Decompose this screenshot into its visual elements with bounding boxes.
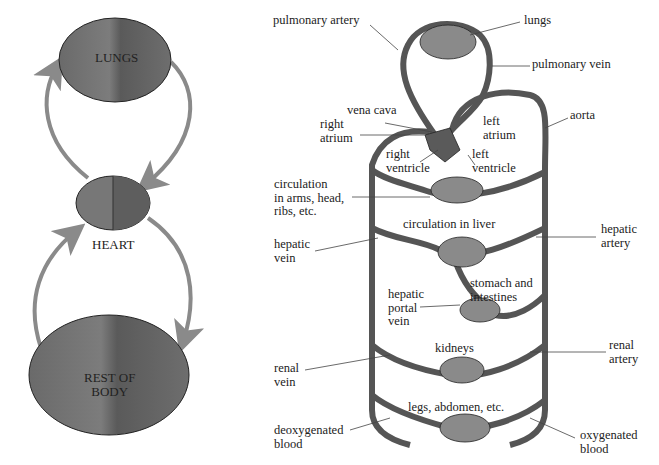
label-aorta: aorta <box>570 109 595 123</box>
label-left-atrium: left atrium <box>483 115 516 142</box>
label-kidneys: kidneys <box>435 342 474 356</box>
label-vena-cava: vena cava <box>347 104 397 118</box>
label-pulmonary-artery: pulmonary artery <box>273 14 359 28</box>
label-hepatic-vein: hepatic vein <box>274 238 310 265</box>
label-deoxygenated: deoxygenated blood <box>274 424 343 451</box>
label-renal-artery: renal artery <box>609 339 638 366</box>
label-right-ventricle: right ventricle <box>386 148 430 175</box>
label-renal-vein: renal vein <box>274 362 299 389</box>
arrow-heart-to-body <box>148 218 191 342</box>
label-circulation-liver: circulation in liver <box>403 218 495 232</box>
label-lungs: lungs <box>524 14 551 28</box>
label-oxygenated: oxygenated blood <box>580 429 638 456</box>
heart-label: HEART <box>92 238 135 252</box>
label-hepatic-artery: hepatic artery <box>601 223 637 250</box>
label-right-atrium: right atrium <box>320 118 353 145</box>
body-label: REST OF BODY <box>84 371 135 399</box>
label-stomach: stomach and intestines <box>470 277 533 304</box>
label-legs: legs, abdomen, etc. <box>408 401 504 415</box>
lungs-label: LUNGS <box>95 51 138 65</box>
label-left-ventricle: left ventricle <box>472 148 516 175</box>
label-pulmonary-vein: pulmonary vein <box>532 58 611 72</box>
label-circulation-arms: circulation in arms, head, ribs, etc. <box>274 178 344 219</box>
label-hepatic-portal-vein: hepatic portal vein <box>388 288 424 329</box>
